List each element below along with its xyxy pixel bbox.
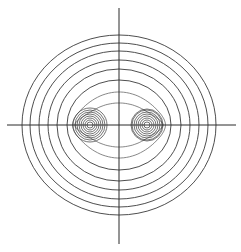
diagram-canvas: [0, 0, 241, 252]
equipotential-diagram: [0, 0, 241, 252]
